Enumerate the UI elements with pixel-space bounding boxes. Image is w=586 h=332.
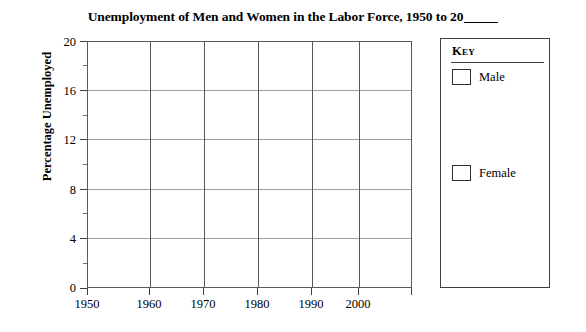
gridline-v-1980: [258, 42, 259, 287]
y-tick-label-16: 16: [50, 84, 76, 99]
chart-title-text: Unemployment of Men and Women in the Lab…: [88, 9, 464, 24]
x-tick-1970: [203, 288, 204, 295]
x-tick-label-2000: 2000: [333, 297, 383, 312]
legend-entry-male[interactable]: Male: [452, 69, 505, 85]
y-tick-major-12: [80, 139, 87, 140]
x-tick-label-1960: 1960: [124, 297, 174, 312]
x-tick-label-1950: 1950: [62, 297, 112, 312]
legend-label-female: Female: [479, 166, 516, 181]
y-tick-major-20: [80, 41, 87, 42]
x-tick-1990: [311, 288, 312, 295]
chart-title: Unemployment of Men and Women in the Lab…: [0, 9, 586, 25]
gridline-v-1990: [312, 42, 313, 287]
title-fill-in-blank: [464, 22, 498, 23]
gridline-v-1960: [150, 42, 151, 287]
x-tick-2000: [358, 288, 359, 295]
y-tick-major-4: [80, 238, 87, 239]
y-tick-label-8: 8: [50, 183, 76, 198]
x-tick-1950: [87, 288, 88, 295]
gridline-h-16: [88, 90, 411, 91]
legend: Key Male Female: [440, 38, 550, 288]
gridline-h-12: [88, 139, 411, 140]
y-tick-label-20: 20: [50, 35, 76, 50]
x-tick-label-1980: 1980: [232, 297, 282, 312]
gridline-h-4: [88, 238, 411, 239]
y-tick-label-12: 12: [50, 133, 76, 148]
legend-swatch-male[interactable]: [452, 69, 471, 85]
y-tick-major-0: [80, 288, 87, 289]
y-tick-label-0: 0: [50, 281, 76, 296]
x-tick-label-1990: 1990: [286, 297, 336, 312]
x-tick-1980: [257, 288, 258, 295]
legend-title-underline: [451, 62, 544, 63]
plot-area[interactable]: [87, 41, 412, 288]
y-tick-major-8: [80, 189, 87, 190]
gridline-v-2000: [359, 42, 360, 287]
legend-label-male: Male: [479, 70, 505, 85]
legend-entry-female[interactable]: Female: [452, 165, 516, 181]
y-tick-major-16: [80, 90, 87, 91]
y-tick-label-4: 4: [50, 232, 76, 247]
legend-title: Key: [452, 44, 475, 59]
x-tick-end: [411, 288, 412, 295]
legend-swatch-female[interactable]: [452, 165, 471, 181]
x-tick-label-1970: 1970: [178, 297, 228, 312]
x-tick-1960: [149, 288, 150, 295]
gridline-v-1970: [204, 42, 205, 287]
gridline-h-8: [88, 189, 411, 190]
